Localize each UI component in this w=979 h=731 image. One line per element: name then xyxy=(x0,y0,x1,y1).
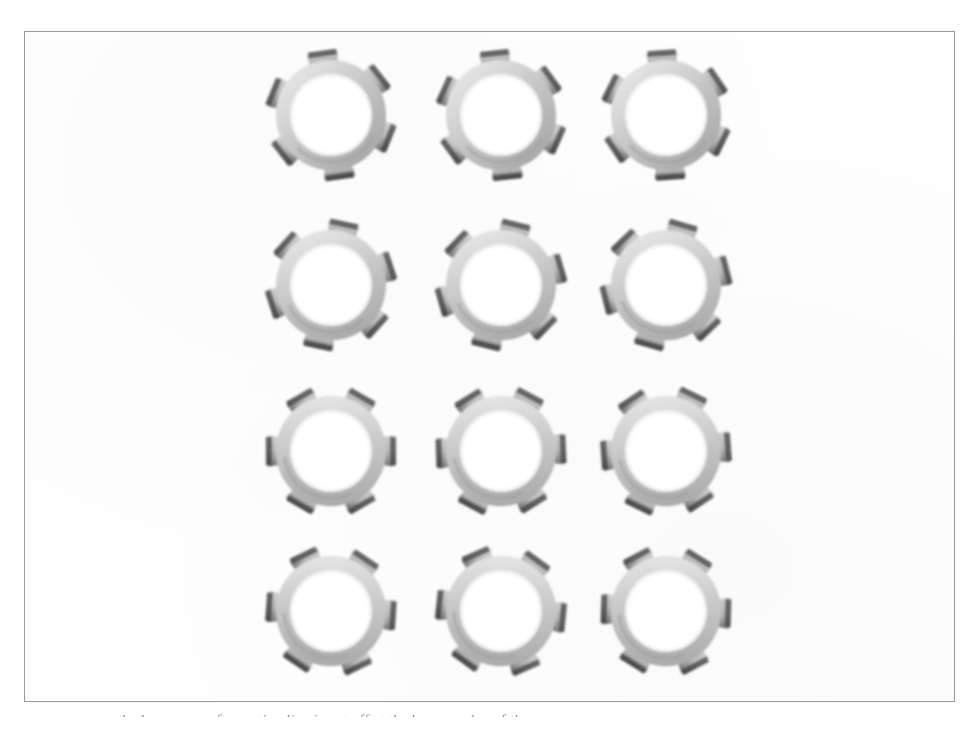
washer xyxy=(256,210,406,360)
washer xyxy=(426,376,576,526)
washer xyxy=(256,40,406,190)
clipped-caption-strip: the lower part of a caption line is cut … xyxy=(0,712,979,731)
washer xyxy=(591,536,741,686)
washer xyxy=(426,536,576,686)
washer xyxy=(591,210,741,360)
washer xyxy=(591,40,741,190)
washer-grid xyxy=(25,32,954,701)
caption-clip-mask xyxy=(0,717,979,731)
washer xyxy=(426,210,576,360)
scanned-page: the lower part of a caption line is cut … xyxy=(0,0,979,731)
washer xyxy=(256,376,406,526)
washer xyxy=(256,536,406,686)
washer xyxy=(591,376,741,526)
figure-plate xyxy=(24,31,955,702)
washer xyxy=(426,40,576,190)
